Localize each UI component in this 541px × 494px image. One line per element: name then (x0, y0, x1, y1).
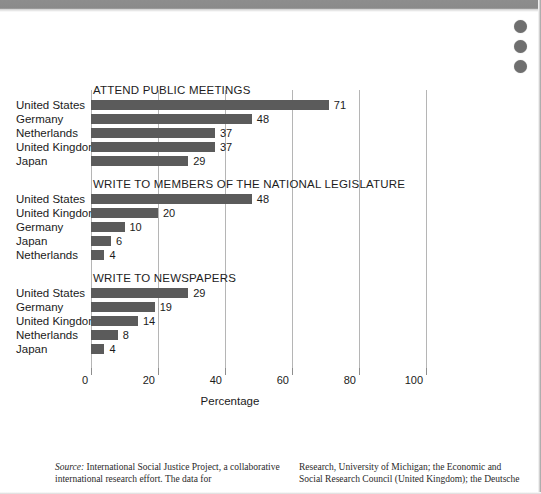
category-label: Japan (16, 155, 88, 168)
bar-value-label: 8 (123, 329, 129, 341)
bar-row: United States48 (0, 193, 460, 207)
bar-row: Japan29 (0, 155, 460, 169)
bar (91, 344, 104, 354)
panel-rows: United States29Germany19United Kingdom14… (0, 287, 460, 357)
x-axis-tick-label: 60 (258, 374, 289, 386)
x-axis-tick (158, 368, 159, 375)
panel-title: WRITE TO NEWSPAPERS (93, 272, 236, 284)
category-label: Japan (16, 343, 88, 356)
bar-value-label: 10 (130, 221, 142, 233)
bar-value-label: 71 (334, 99, 346, 111)
bar-value-label: 48 (257, 113, 269, 125)
bar (91, 222, 125, 232)
source-column-1: Source: International Social Justice Pro… (55, 462, 281, 485)
bar-value-label: 14 (143, 315, 155, 327)
bar-value-label: 48 (257, 193, 269, 205)
bar-chart-figure: ATTEND PUBLIC MEETINGSUnited States71Ger… (0, 0, 541, 430)
bar (91, 288, 188, 298)
panel-rows: United States48United Kingdom20Germany10… (0, 193, 460, 263)
bar-row: United Kingdom14 (0, 315, 460, 329)
bar-value-label: 20 (163, 207, 175, 219)
x-axis-tick (426, 368, 427, 375)
x-axis-tick (91, 368, 92, 375)
category-label: Germany (16, 113, 88, 126)
bar-row: Japan4 (0, 343, 460, 357)
bar (91, 156, 188, 166)
bar-row: United States71 (0, 99, 460, 113)
source-text-2: Research, University of Michigan; the Ec… (299, 462, 520, 484)
bar (91, 330, 118, 340)
x-axis-tick-label: 20 (124, 374, 155, 386)
bar-row: Japan6 (0, 235, 460, 249)
bar (91, 114, 252, 124)
category-label: Netherlands (16, 127, 88, 140)
bar-value-label: 19 (160, 301, 172, 313)
category-label: United States (16, 193, 88, 206)
bar (91, 236, 111, 246)
x-axis-tick-label: 0 (57, 374, 88, 386)
bar (91, 208, 158, 218)
category-label: United Kingdom (16, 315, 88, 328)
x-axis-tick-label: 80 (325, 374, 356, 386)
category-label: Netherlands (16, 329, 88, 342)
category-label: Germany (16, 221, 88, 234)
x-axis-title: Percentage (0, 395, 460, 407)
x-axis-tick (292, 368, 293, 375)
category-label: Netherlands (16, 249, 88, 262)
bar (91, 316, 138, 326)
category-label: Japan (16, 235, 88, 248)
category-label: United Kingdom (16, 141, 88, 154)
bar-value-label: 29 (193, 287, 205, 299)
bar (91, 128, 215, 138)
x-axis-tick (359, 368, 360, 375)
bar (91, 194, 252, 204)
bar-row: Germany48 (0, 113, 460, 127)
bar (91, 100, 329, 110)
category-label: United States (16, 287, 88, 300)
bar-value-label: 4 (109, 343, 115, 355)
x-axis-tick (225, 368, 226, 375)
bar-row: United Kingdom20 (0, 207, 460, 221)
source-column-2: Research, University of Michigan; the Ec… (299, 462, 525, 485)
source-label: Source: (55, 462, 84, 472)
bar-row: Germany10 (0, 221, 460, 235)
panel-rows: United States71Germany48Netherlands37Uni… (0, 99, 460, 169)
bar-row: Netherlands8 (0, 329, 460, 343)
bar-row: United Kingdom37 (0, 141, 460, 155)
category-label: Germany (16, 301, 88, 314)
source-footnote: Source: International Social Justice Pro… (55, 462, 525, 485)
panel-title: WRITE TO MEMBERS OF THE NATIONAL LEGISLA… (93, 178, 405, 190)
panel-title: ATTEND PUBLIC MEETINGS (93, 84, 251, 96)
bar-row: Netherlands37 (0, 127, 460, 141)
bar-value-label: 29 (193, 155, 205, 167)
bar-row: Germany19 (0, 301, 460, 315)
bar-row: United States29 (0, 287, 460, 301)
bar (91, 302, 155, 312)
bar (91, 142, 215, 152)
bar-value-label: 37 (220, 141, 232, 153)
source-text-1: International Social Justice Project, a … (55, 462, 280, 484)
bar (91, 250, 104, 260)
category-label: United Kingdom (16, 207, 88, 220)
bar-value-label: 4 (109, 249, 115, 261)
bar-value-label: 6 (116, 235, 122, 247)
bar-row: Netherlands4 (0, 249, 460, 263)
x-axis-tick-label: 100 (392, 374, 423, 386)
category-label: United States (16, 99, 88, 112)
x-axis-tick-label: 40 (191, 374, 222, 386)
bar-value-label: 37 (220, 127, 232, 139)
